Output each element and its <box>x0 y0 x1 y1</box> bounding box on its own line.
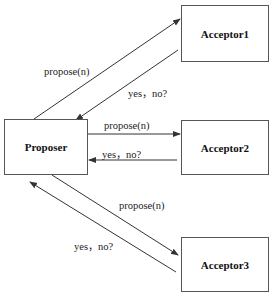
acceptor3-label: Acceptor3 <box>201 259 249 271</box>
proposer-label: Proposer <box>25 141 68 153</box>
acceptor2-node: Acceptor2 <box>181 120 269 175</box>
acceptor2-label: Acceptor2 <box>201 142 249 154</box>
proposer-node: Proposer <box>4 119 88 175</box>
edge-label-a1-reply: yes，no? <box>128 85 167 100</box>
edge-label-a3-propose: propose(n) <box>119 200 165 211</box>
edge-label-a1-propose: propose(n) <box>44 66 90 77</box>
edge-label-a2-reply: yes，no? <box>102 146 141 161</box>
edge-label-a2-propose: propose(n) <box>104 120 150 131</box>
acceptor3-node: Acceptor3 <box>181 237 269 292</box>
acceptor1-label: Acceptor1 <box>201 28 249 40</box>
arrow-propose-acceptor3 <box>52 175 178 255</box>
arrow-reply-acceptor3 <box>30 182 176 272</box>
acceptor1-node: Acceptor1 <box>181 5 269 62</box>
edge-label-a3-reply: yes，no? <box>74 238 113 253</box>
